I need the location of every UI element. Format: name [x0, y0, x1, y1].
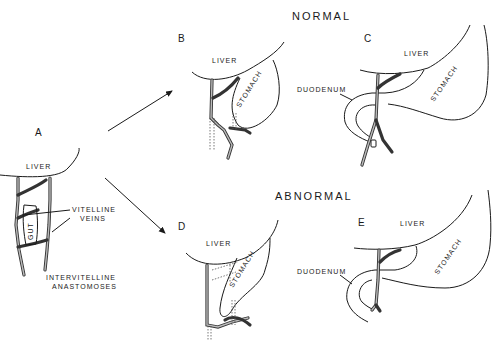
vein-b-branch [213, 78, 238, 98]
panel-b: B LIVER STOMACH [178, 33, 284, 158]
vitelline-label-line2: VEINS [80, 215, 106, 222]
duodenum-pointer-e [340, 275, 352, 284]
anastomoses-label-line1: INTERVITELLINE [46, 274, 116, 281]
panel-letter-d: D [178, 221, 185, 232]
vitelline-label-line1: VITELLINE [72, 206, 116, 213]
stomach-label-e: STOMACH [433, 237, 463, 275]
panel-d: D LIVER STOMACH [178, 220, 278, 340]
panel-c: C LIVER STOMACH DUODENUM [297, 25, 488, 165]
liver-label-b: LIVER [212, 57, 237, 64]
diagram-canvas: NORMAL ABNORMAL A LIVER GUT VITELLINE VE… [0, 0, 503, 346]
arrow-a-to-b [108, 91, 172, 131]
gut-label-a: GUT [27, 222, 34, 240]
stomach-shape-d [220, 238, 270, 317]
panel-letter-e: E [358, 217, 365, 228]
vitelline-pointer-2 [52, 218, 70, 232]
liver-shape-d [186, 220, 278, 264]
duodenum-label-c: DUODENUM [297, 86, 346, 93]
heading-abnormal: ABNORMAL [275, 190, 353, 202]
panel-letter-b: B [178, 33, 185, 44]
liver-label-d: LIVER [206, 240, 231, 247]
regressed-vein-b [210, 118, 214, 150]
anastomoses-label-line2: ANASTOMOSES [52, 283, 117, 290]
anastomosis-1 [18, 180, 46, 195]
duodenum-pointer-c [340, 94, 352, 100]
stomach-duodenum-e [347, 190, 491, 322]
panel-e: E LIVER STOMACH DUODENUM [297, 190, 491, 322]
duodenum-label-e: DUODENUM [297, 268, 346, 275]
stomach-label-b: STOMACH [235, 69, 263, 108]
liver-label-a: LIVER [26, 163, 51, 170]
heading-normal: NORMAL [292, 10, 351, 22]
liver-label-e: LIVER [400, 220, 425, 227]
vein-c-right [376, 120, 392, 152]
liver-shape-b [192, 42, 284, 79]
liver-label-c: LIVER [404, 50, 429, 57]
anastomosis-2 [18, 240, 47, 247]
panel-letter-c: C [364, 33, 371, 44]
stomach-label-c: STOMACH [429, 64, 459, 102]
panel-letter-a: A [35, 127, 42, 138]
panel-a: A LIVER GUT VITELLINE VEINS INTERVITELLI… [0, 127, 117, 290]
vein-e-branch [376, 305, 380, 311]
